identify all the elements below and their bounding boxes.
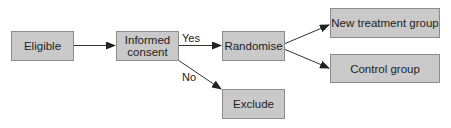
edge-label-no: No — [182, 71, 196, 83]
edge-label-yes: Yes — [182, 32, 200, 44]
node-eligible: Eligible — [11, 31, 74, 61]
node-informed-consent-line1: Informed — [125, 34, 170, 46]
node-informed-consent-line2: consent — [127, 46, 167, 58]
node-randomise-label: Randomise — [224, 40, 282, 52]
flowchart-diagram: Eligible Informed consent Randomise Excl… — [0, 0, 451, 128]
node-randomise: Randomise — [222, 31, 285, 61]
node-eligible-label: Eligible — [24, 40, 61, 52]
node-exclude-label: Exclude — [233, 98, 274, 110]
node-new-treatment-group: New treatment group — [330, 8, 440, 38]
node-new-treatment-group-label: New treatment group — [331, 17, 438, 29]
node-control-group-label: Control group — [350, 63, 420, 75]
arrow-randomise-to-control — [284, 49, 329, 68]
node-informed-consent: Informed consent — [116, 31, 179, 61]
arrow-randomise-to-treatment — [284, 25, 329, 44]
node-exclude: Exclude — [222, 89, 285, 119]
node-control-group: Control group — [330, 54, 440, 83]
